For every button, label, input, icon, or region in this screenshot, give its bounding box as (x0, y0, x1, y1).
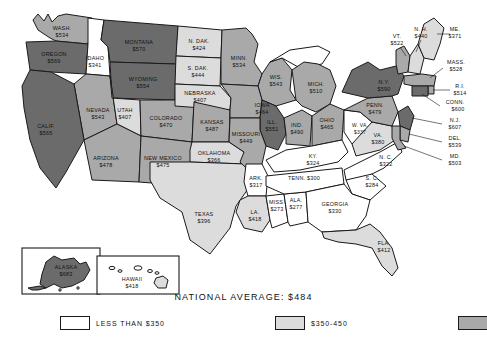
label-fla-name: FLA. (378, 240, 390, 246)
label-nebraska-value: $407 (194, 97, 207, 103)
label-vt-name: VT. (393, 33, 402, 39)
label-georgia-name: GEORGIA (322, 201, 349, 207)
leader-md (404, 146, 442, 160)
label-la-name: LA. (251, 209, 260, 215)
label-sdak-value: $444 (192, 72, 205, 78)
label-wyoming-value: $554 (137, 83, 150, 89)
label-ny-name: N.Y. (379, 79, 390, 85)
label-alaska-value: $683 (60, 271, 73, 277)
label-newmex-value: $475 (157, 162, 170, 168)
state-conn[interactable] (412, 86, 428, 96)
label-penn-name: PENN. (366, 102, 384, 108)
label-mass-value: $528 (450, 66, 463, 72)
label-ky-name: KY. (309, 153, 318, 159)
label-sc-name: S. C. (365, 175, 378, 181)
state-sdak[interactable] (175, 56, 221, 86)
label-la-value: $418 (249, 216, 262, 222)
alaska-island (59, 289, 62, 292)
label-ark-value: $317 (250, 182, 263, 188)
label-calif-name: CALIF. (37, 123, 55, 129)
label-ill-value: $551 (266, 126, 279, 132)
state-mass[interactable] (404, 74, 436, 86)
label-conn-name: CONN. (446, 99, 465, 105)
label-ohio-value: $465 (321, 124, 334, 130)
label-hawaii-name: HAWAII (122, 276, 142, 282)
label-texas-name: TEXAS (195, 211, 214, 217)
label-ark-name: ARK. (249, 175, 263, 181)
label-nc-value: $322 (380, 161, 393, 167)
label-ind-name: IND. (291, 122, 303, 128)
label-okla-value: $366 (208, 157, 221, 163)
label-nj-name: N.J. (450, 117, 461, 123)
label-idaho-value: $341 (89, 62, 102, 68)
label-ky-value: $324 (307, 160, 320, 166)
legend-swatch-0 (60, 316, 90, 330)
label-mich-value: $510 (310, 88, 323, 94)
label-iowa-name: IOWA (254, 102, 269, 108)
label-oregon-value: $569 (48, 58, 61, 64)
label-fla-value: $412 (378, 247, 391, 253)
label-wva-name: W. VA. (352, 123, 368, 128)
label-del-name: DEL. (449, 135, 462, 141)
label-ala-name: ALA. (290, 197, 303, 203)
label-nj-value: $607 (449, 124, 462, 130)
state-texas[interactable] (150, 162, 250, 254)
label-nc-name: N. C. (379, 154, 393, 160)
legend-item-350-450[interactable]: $350-450 (275, 316, 348, 330)
label-penn-value: $479 (369, 109, 382, 115)
label-montana-value: $570 (133, 46, 146, 52)
label-oregon-name: OREGON (41, 51, 66, 57)
label-iowa-value: $464 (256, 109, 269, 115)
legend-label-0: LESS THAN $350 (96, 320, 165, 327)
label-ny-value: $590 (378, 86, 391, 92)
label-ri-name: R.I. (455, 83, 464, 89)
label-colorado-name: COLORADO (150, 115, 183, 121)
label-kansas-name: KANSAS (200, 119, 224, 125)
label-arizona-name: ARIZONA (93, 155, 119, 161)
label-kansas-value: $487 (206, 126, 219, 132)
national-average-text: NATIONAL AVERAGE: $484 (0, 292, 487, 302)
label-ohio-name: OHIO (320, 117, 335, 123)
label-mich-name: MICH. (308, 81, 325, 87)
label-wis-value: $543 (270, 81, 283, 87)
label-ill-name: ILL. (267, 119, 277, 125)
label-miss-name: MISS. (269, 199, 285, 205)
leader-nj (412, 118, 442, 124)
label-minn-value: $534 (233, 62, 246, 68)
state-calif[interactable] (22, 70, 84, 188)
label-nh-name: N. H. (414, 26, 428, 32)
label-ndak-name: N. DAK. (188, 38, 209, 44)
leader-del (409, 134, 442, 142)
label-calif-value: $565 (40, 130, 53, 136)
label-ind-value: $490 (291, 129, 304, 135)
label-okla-name: OKLAHOMA (198, 150, 231, 156)
label-mass-name: MASS. (447, 59, 465, 65)
label-missouri-value: $449 (240, 138, 253, 144)
label-wyoming-name: WYOMING (129, 76, 158, 82)
label-ndak-value: $424 (193, 45, 206, 51)
state-ny[interactable] (342, 62, 404, 98)
label-nh-value: $440 (415, 33, 428, 39)
label-arizona-value: $478 (100, 162, 113, 168)
label-tenn-name: TENN. $300 (288, 175, 320, 181)
label-texas-value: $396 (198, 218, 211, 224)
map-legend: LESS THAN $350 $350-450 $450-550 MORE TH… (0, 313, 487, 333)
state-ind[interactable] (284, 110, 312, 146)
legend-item-less-than-350[interactable]: LESS THAN $350 (60, 316, 165, 330)
label-alaska-name: ALASKA (55, 264, 78, 270)
label-miss-value: $273 (271, 206, 284, 212)
label-montana-name: MONTANA (125, 39, 153, 45)
label-ala-value: $277 (290, 204, 303, 210)
legend-item-450-550[interactable]: $450-550 (458, 316, 487, 330)
label-vt-value: $522 (391, 40, 404, 46)
label-hawaii-value: $418 (126, 283, 139, 289)
label-nevada-value: $543 (92, 114, 105, 120)
state-me[interactable] (418, 18, 444, 60)
label-nebraska-name: NEBRASKA (184, 90, 216, 96)
label-del-value: $539 (449, 142, 462, 148)
legend-swatch-1 (275, 316, 305, 330)
label-sc-value: $284 (366, 182, 379, 188)
label-wash-value: $534 (56, 32, 69, 38)
label-md-value: $503 (449, 160, 462, 166)
label-wva-value: $337 (354, 130, 366, 135)
